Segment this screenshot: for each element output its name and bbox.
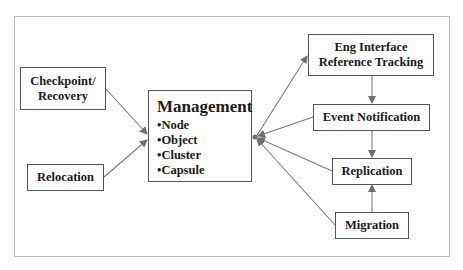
migration-label: Migration bbox=[345, 218, 399, 233]
eng-interface-line2: Reference Tracking bbox=[319, 55, 424, 70]
checkpoint-recovery-line2: Recovery bbox=[38, 89, 88, 104]
management-box: Management •Node •Object •Cluster •Capsu… bbox=[148, 90, 252, 182]
management-title: Management bbox=[157, 97, 252, 117]
checkpoint-recovery-box: Checkpoint/ Recovery bbox=[20, 67, 106, 110]
relocation-label: Relocation bbox=[37, 170, 94, 185]
management-item-node: •Node bbox=[157, 118, 189, 133]
relocation-box: Relocation bbox=[27, 164, 104, 191]
replication-box: Replication bbox=[332, 158, 412, 185]
eng-interface-box: Eng Interface Reference Tracking bbox=[308, 34, 434, 76]
checkpoint-recovery-line1: Checkpoint/ bbox=[30, 74, 95, 89]
event-notification-label: Event Notification bbox=[323, 110, 421, 125]
eng-interface-line1: Eng Interface bbox=[334, 40, 407, 55]
management-item-capsule: •Capsule bbox=[157, 163, 204, 178]
migration-box: Migration bbox=[335, 212, 409, 239]
management-item-cluster: •Cluster bbox=[157, 148, 201, 163]
management-item-object: •Object bbox=[157, 133, 197, 148]
replication-label: Replication bbox=[341, 164, 402, 179]
event-notification-box: Event Notification bbox=[313, 104, 430, 131]
